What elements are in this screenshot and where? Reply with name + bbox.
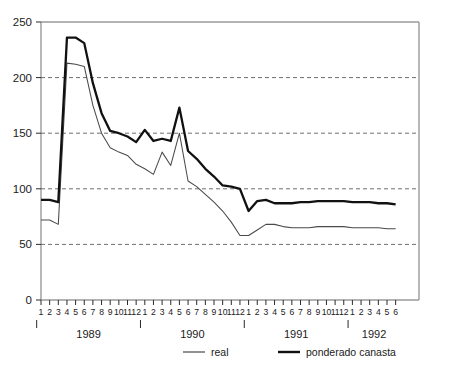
x-month-label-17: 6: [186, 307, 191, 317]
x-month-label-19: 8: [203, 307, 208, 317]
legend-label-ponderado-canasta: ponderado canasta: [306, 346, 396, 358]
x-month-label-31: 8: [307, 307, 312, 317]
x-month-label-18: 7: [194, 307, 199, 317]
x-axis-month-labels: 1234567891011121234567891011121234567891…: [39, 307, 399, 317]
x-month-label-0: 1: [39, 307, 44, 317]
y-axis-label-200: 200: [13, 72, 32, 84]
x-month-label-29: 6: [289, 307, 294, 317]
x-month-label-16: 5: [177, 307, 182, 317]
y-axis-label-250: 250: [13, 16, 32, 28]
x-month-label-23: 12: [235, 307, 245, 317]
x-month-label-26: 3: [264, 307, 269, 317]
x-month-label-39: 4: [376, 307, 381, 317]
x-month-label-35: 12: [339, 307, 349, 317]
x-month-label-40: 5: [385, 307, 390, 317]
x-month-label-12: 1: [142, 307, 147, 317]
x-month-label-41: 6: [393, 307, 398, 317]
x-month-label-11: 12: [131, 307, 141, 317]
y-axis-label-150: 150: [13, 127, 32, 139]
y-axis-labels: 050100150200250: [13, 16, 32, 306]
chart-container: 050100150200250 123456789101112123456789…: [0, 0, 462, 371]
x-month-label-38: 3: [367, 307, 372, 317]
y-axis-label-0: 0: [26, 294, 32, 306]
x-month-label-7: 8: [99, 307, 104, 317]
year-label-1992: 1992: [362, 328, 386, 340]
y-axis-label-50: 50: [19, 238, 32, 250]
legend-label-real: real: [211, 346, 229, 358]
x-month-label-1: 2: [47, 307, 52, 317]
x-month-label-6: 7: [91, 307, 96, 317]
year-label-1991: 1991: [284, 328, 308, 340]
x-month-label-37: 2: [359, 307, 364, 317]
series-line-ponderado-canasta: [41, 38, 396, 211]
x-month-label-27: 4: [272, 307, 277, 317]
x-month-label-32: 9: [315, 307, 320, 317]
x-month-label-30: 7: [298, 307, 303, 317]
y-axis-ticks: [36, 22, 41, 300]
x-month-label-36: 1: [350, 307, 355, 317]
x-month-label-8: 9: [108, 307, 113, 317]
year-labels: 1989199019911992: [76, 328, 386, 340]
x-month-label-20: 9: [212, 307, 217, 317]
x-month-label-28: 5: [281, 307, 286, 317]
x-month-label-2: 3: [56, 307, 61, 317]
x-month-label-14: 3: [160, 307, 165, 317]
plot-frame: [41, 22, 419, 300]
x-axis-ticks: [41, 300, 396, 305]
x-month-label-25: 2: [255, 307, 260, 317]
x-month-label-24: 1: [246, 307, 251, 317]
x-month-label-5: 6: [82, 307, 87, 317]
x-month-label-3: 4: [65, 307, 70, 317]
year-label-1990: 1990: [180, 328, 204, 340]
x-month-label-13: 2: [151, 307, 156, 317]
x-month-label-4: 5: [73, 307, 78, 317]
chart-legend: real ponderado canasta: [183, 346, 396, 358]
year-label-1989: 1989: [76, 328, 100, 340]
y-axis-label-100: 100: [13, 183, 32, 195]
line-chart: 050100150200250 123456789101112123456789…: [0, 0, 462, 371]
year-tick-marks: [37, 320, 348, 328]
x-month-label-15: 4: [168, 307, 173, 317]
